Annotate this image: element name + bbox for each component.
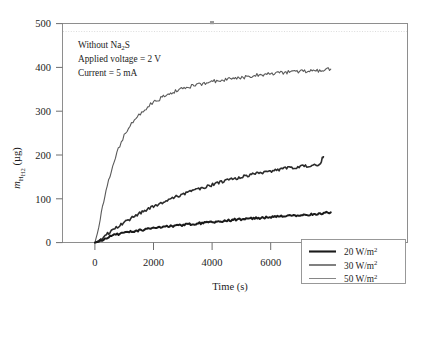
- y-tick-group-1: 100: [35, 194, 62, 205]
- y-tick-label: 300: [35, 106, 51, 117]
- x-tick-label: 2000: [143, 257, 164, 268]
- y-tick-group-3: 300: [35, 106, 62, 117]
- y-tick-label: 0: [46, 237, 51, 248]
- y-tick-label: 400: [35, 62, 51, 73]
- x-tick-group-2: 4000: [202, 243, 223, 269]
- y-axis-title-group: mHH2 (µg): [11, 147, 26, 189]
- x-tick-group-0: 0: [92, 243, 97, 269]
- annotation-line-1-post: S: [125, 40, 130, 50]
- hydrogen-mass-vs-time-chart: 0 100 200 300 400 500: [0, 0, 429, 339]
- y-axis-title-unit: (µg): [11, 147, 23, 166]
- legend-label-30-unit: W/m: [355, 261, 374, 271]
- legend-label-30-exp: 2: [374, 259, 377, 266]
- legend: 20 W/m2 30 W/m2 50 W/m2: [302, 240, 406, 285]
- figure-container: 0 100 200 300 400 500: [0, 0, 429, 339]
- y-tick-group-2: 200: [35, 150, 62, 161]
- scan-artifact-dot: [210, 21, 214, 24]
- legend-label-30-value: 30: [344, 261, 354, 271]
- x-tick-group-1: 2000: [143, 243, 164, 269]
- y-tick-label: 200: [35, 150, 51, 161]
- annotation-line-3: Current = 5 mA: [78, 68, 137, 78]
- legend-label-20: 20 W/m2: [344, 246, 377, 257]
- x-tick-label: 6000: [260, 257, 281, 268]
- legend-label-50-unit: W/m: [355, 274, 374, 284]
- legend-label-50: 50 W/m2: [344, 273, 377, 284]
- legend-label-20-value: 20: [344, 247, 354, 257]
- x-tick-label: 0: [92, 257, 97, 268]
- x-tick-group-3: 6000: [260, 243, 281, 269]
- y-tick-label: 500: [35, 18, 51, 29]
- y-tick-group-4: 400: [35, 62, 62, 73]
- y-tick-label: 100: [35, 194, 51, 205]
- x-axis-title: Time (s): [212, 281, 248, 293]
- y-axis: 0 100 200 300 400 500: [35, 18, 62, 248]
- annotation-line-1-pre: Without Na: [78, 40, 121, 50]
- y-axis-title-subscript-2: H2: [19, 168, 26, 176]
- y-axis-title: mHH2 (µg): [11, 147, 26, 189]
- legend-label-50-exp: 2: [374, 273, 377, 280]
- annotation-line-2: Applied voltage = 2 V: [78, 54, 161, 64]
- x-tick-label: 4000: [202, 257, 223, 268]
- legend-label-50-value: 50: [344, 274, 354, 284]
- legend-label-30: 30 W/m2: [344, 259, 377, 270]
- legend-label-20-unit: W/m: [355, 247, 374, 257]
- legend-label-20-exp: 2: [374, 246, 377, 253]
- y-tick-group-0: 0: [46, 237, 63, 248]
- y-tick-group-5: 500: [35, 18, 62, 29]
